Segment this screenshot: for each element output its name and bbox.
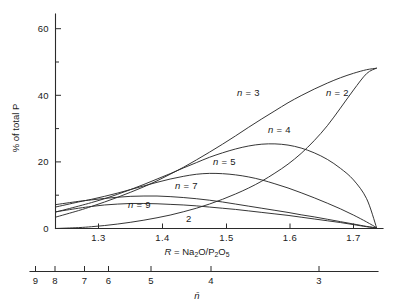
x-tick-label-1-6: 1.6 xyxy=(283,232,297,243)
curve-label-3: n = 5 xyxy=(213,156,236,167)
x-tick-label-1-7: 1.7 xyxy=(346,232,360,243)
secondary-tick-label-6: 6 xyxy=(106,275,112,286)
x-axis-title: R = Na2O/P2O5 xyxy=(165,246,230,258)
curve-label-2: n = 4 xyxy=(268,124,291,135)
y-tick-label-40: 40 xyxy=(38,90,49,101)
curve-n7 xyxy=(56,196,377,228)
curve-label-group: n = 3n = 2n = 4n = 5n = 7n = 92 xyxy=(128,87,349,224)
secondary-tick-label-3: 3 xyxy=(316,275,322,286)
secondary-tick-label-7: 7 xyxy=(82,275,88,286)
y-axis-title: % of total P xyxy=(10,104,21,153)
curve-label-6: 2 xyxy=(186,213,192,224)
curve-n9 xyxy=(56,203,377,227)
secondary-axis-ticks xyxy=(36,266,320,272)
secondary-tick-label-4: 4 xyxy=(208,275,214,286)
x-axis-title-mid2: O xyxy=(218,246,225,257)
chart-figure: 0 20 40 60 % of total P 1.3 1.4 1.5 1.6 … xyxy=(0,0,394,307)
x-tick-label-1-3: 1.3 xyxy=(91,232,105,243)
secondary-axis-title: n̄ xyxy=(194,290,200,301)
curve-label-4: n = 7 xyxy=(175,180,198,191)
chart-svg: 0 20 40 60 % of total P 1.3 1.4 1.5 1.6 … xyxy=(0,0,394,307)
y-tick-label-60: 60 xyxy=(38,23,49,34)
curve-label-0: n = 3 xyxy=(237,87,260,98)
x-axis-ticks xyxy=(99,224,354,229)
x-axis-title-sub3: 5 xyxy=(226,251,230,258)
y-tick-label-0: 0 xyxy=(43,223,49,234)
x-tick-label-1-5: 1.5 xyxy=(219,232,233,243)
y-tick-label-20: 20 xyxy=(38,156,49,167)
curve-label-5: n = 9 xyxy=(128,199,151,210)
secondary-tick-label-8: 8 xyxy=(52,275,58,286)
secondary-tick-label-9: 9 xyxy=(33,275,39,286)
secondary-tick-label-5: 5 xyxy=(148,275,154,286)
curve-label-1: n = 2 xyxy=(326,87,349,98)
x-axis-title-eq: = Na xyxy=(171,246,195,257)
x-axis-title-mid: O/P xyxy=(198,246,214,257)
x-tick-label-1-4: 1.4 xyxy=(155,232,169,243)
